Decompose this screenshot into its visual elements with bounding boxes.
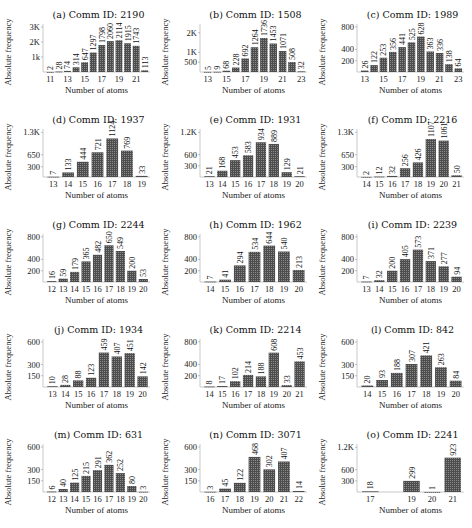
histogram-bar — [99, 353, 109, 387]
histogram-bar — [90, 53, 97, 72]
x-axis-label: Number of atoms — [65, 190, 128, 200]
x-tick-label: 19 — [427, 179, 436, 189]
histogram-bar — [435, 367, 447, 387]
histogram-bar — [73, 67, 80, 72]
x-tick-label: 17 — [401, 179, 410, 189]
x-tick-label: 18 — [116, 494, 125, 504]
x-tick-label: 13 — [360, 74, 369, 84]
bar-value-label: 113 — [141, 57, 150, 69]
histogram-bar — [451, 175, 461, 177]
bar-value-label: 93 — [378, 370, 387, 378]
y-axis-label: Absolute frequency — [160, 228, 170, 296]
x-tick-label: 12 — [47, 494, 56, 504]
x-tick-label: 16 — [236, 284, 245, 294]
bar-value-label: 215 — [82, 462, 91, 474]
histogram-panel-j: (j) Comm ID: 1934Absolute frequency15030… — [0, 315, 158, 420]
histogram-panel-n: (n) Comm ID: 3071Absolute frequency15030… — [157, 420, 315, 525]
histogram-bar — [362, 491, 378, 492]
bar-value-label: 573 — [414, 236, 423, 248]
x-tick-label: 16 — [388, 179, 397, 189]
bar-value-label: 80 — [128, 476, 137, 484]
bar-value-label: 356 — [389, 38, 398, 50]
y-tick-label: 300 — [341, 162, 354, 172]
panel-title: (m) Comm ID: 631 — [54, 429, 143, 440]
histogram-bar — [243, 375, 253, 387]
bar-value-label: 2 — [362, 171, 371, 175]
x-tick-label: 17 — [250, 284, 259, 294]
bar-value-label: 168 — [218, 157, 227, 169]
bar-value-label: 253 — [379, 44, 388, 56]
x-tick-label: 16 — [393, 389, 402, 399]
bar-value-label: 363 — [426, 38, 435, 50]
x-tick-label: 17 — [108, 179, 117, 189]
x-tick-label: 16 — [401, 284, 410, 294]
histogram-bar — [125, 353, 135, 387]
panel-title: (k) Comm ID: 2214 — [210, 324, 302, 335]
x-tick-label: 20 — [295, 179, 304, 189]
histogram-bar — [77, 162, 89, 177]
histogram-bar — [361, 177, 371, 178]
x-tick-label: 20 — [282, 389, 291, 399]
histogram-bar — [256, 142, 266, 177]
histogram-bar — [104, 245, 113, 282]
histogram-bar — [260, 38, 267, 72]
bar-value-label: 8 — [205, 381, 214, 385]
bar-value-label: 188 — [393, 359, 402, 371]
histogram-panel-i: (i) Comm ID: 2239Absolute frequency20040… — [314, 210, 472, 315]
x-axis-label: Number of atoms — [65, 85, 128, 95]
panel-title: (n) Comm ID: 3071 — [209, 429, 301, 440]
bar-value-label: 407 — [113, 342, 122, 354]
histogram-bar — [243, 155, 253, 177]
x-tick-label: 15 — [378, 389, 387, 399]
histogram-bar — [137, 376, 147, 387]
histogram-bar — [121, 151, 133, 177]
x-tick-label: 17 — [366, 494, 375, 504]
histogram-bar — [219, 489, 231, 492]
bar-value-label: 1061 — [440, 123, 449, 139]
y-tick-label: 2K — [187, 28, 198, 38]
x-tick-label: 21 — [278, 74, 287, 84]
x-tick-label: 19 — [280, 284, 289, 294]
histogram-bar — [93, 470, 102, 492]
y-tick-label: 200 — [184, 266, 197, 276]
bar-value-label: 1736 — [260, 20, 269, 36]
x-tick-label: 20 — [139, 284, 148, 294]
bar-value-label: 32 — [388, 166, 397, 174]
bar-value-label: 129 — [283, 158, 292, 170]
x-tick-label: 18 — [270, 179, 279, 189]
bar-value-label: 644 — [265, 232, 274, 244]
y-axis-label: Absolute frequency — [317, 438, 327, 506]
histogram-bar — [256, 376, 266, 387]
x-tick-label: 19 — [128, 284, 137, 294]
histogram-bar — [213, 72, 220, 73]
histogram-bar — [60, 385, 70, 387]
y-axis-label: Absolute frequency — [3, 18, 13, 86]
histogram-bar — [408, 42, 415, 72]
y-axis-label: Absolute frequency — [160, 333, 170, 401]
bar-value-label: 33 — [138, 166, 147, 174]
x-tick-label: 15 — [218, 389, 227, 399]
x-tick-label: 18 — [422, 389, 431, 399]
histogram-bar — [251, 47, 258, 72]
histogram-bar — [269, 44, 276, 72]
histogram-bar — [403, 481, 419, 492]
histogram-bar — [424, 492, 440, 493]
histogram-bar — [294, 361, 304, 387]
bar-value-label: 3 — [139, 486, 148, 490]
panel-title: (g) Comm ID: 2244 — [52, 219, 144, 230]
x-tick-label: 19 — [437, 389, 446, 399]
x-tick-label: 19 — [250, 494, 259, 504]
bar-value-label: 59 — [59, 269, 68, 277]
x-tick-label: 21 — [452, 179, 461, 189]
histogram-bar — [278, 252, 290, 282]
histogram-bar — [204, 492, 216, 493]
y-tick-label: 150 — [341, 371, 354, 381]
bar-value-label: 84 — [452, 371, 461, 379]
x-tick-label: 20 — [439, 179, 448, 189]
bar-value-label: 123 — [87, 364, 96, 376]
histogram-bar — [380, 58, 387, 72]
y-tick-label: 800 — [184, 337, 197, 347]
histogram-bar — [223, 71, 230, 72]
histogram-bar — [112, 356, 122, 387]
bar-value-label: 1071 — [279, 33, 288, 49]
